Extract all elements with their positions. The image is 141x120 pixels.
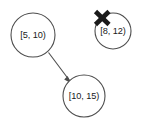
node-label: [5, 10) xyxy=(20,30,45,40)
edge-5-10-to-10-15 xyxy=(49,53,72,84)
interval-graph-diagram: [5, 10) [8, 12) [10, 15) xyxy=(0,0,141,120)
node-interval-10-15[interactable]: [10, 15) xyxy=(63,75,105,117)
node-interval-5-10[interactable]: [5, 10) xyxy=(11,13,55,57)
edge-line xyxy=(49,53,70,81)
node-label: [8, 12) xyxy=(100,26,125,36)
diagram-canvas: [5, 10) [8, 12) [10, 15) xyxy=(0,0,141,120)
node-label: [10, 15) xyxy=(69,91,99,101)
